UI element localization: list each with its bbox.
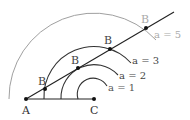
arc-a1 [77,78,107,99]
label-a5: a = 5 [154,29,181,40]
label-a1: a = 1 [108,82,135,93]
label-C: C [90,104,98,117]
point-C [92,97,96,101]
label-a3: a = 3 [132,55,159,66]
point-B3 [108,47,112,51]
label-B5: B [141,13,149,26]
label-A: A [21,104,31,117]
label-B3: B [104,34,112,47]
point-B5 [144,26,148,30]
label-B1: B [38,75,46,88]
point-A [24,97,28,101]
geometry-diagram: A C B B B B a = 1 a = 2 a = 3 a = 5 [0,0,190,120]
label-B2: B [71,54,79,67]
label-a2: a = 2 [119,70,146,81]
